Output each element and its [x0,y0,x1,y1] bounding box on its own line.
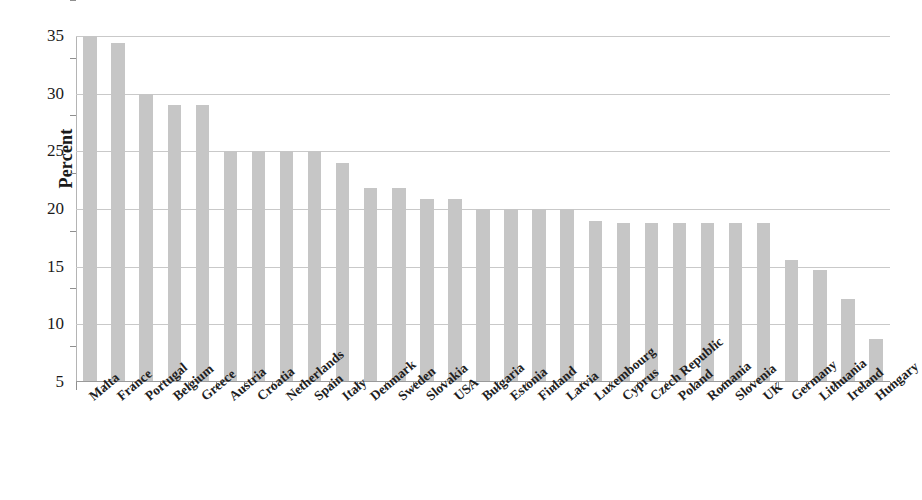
y-tick-mark [70,231,76,232]
y-tick-label: 15 [24,257,64,277]
y-tick-label: 10 [24,314,64,334]
y-tick-label: 35 [24,26,64,46]
y-tick-label: 25 [24,141,64,161]
y-tick-mark [70,0,76,1]
x-axis-labels: MaltaFrancePortugalBelgiumGreeceAustriaC… [76,388,908,500]
y-tick-mark [70,173,76,174]
y-tick-label: 20 [24,199,64,219]
y-tick-mark [70,58,76,59]
y-tick-label: 30 [24,84,64,104]
y-tick-label: 5 [24,372,64,392]
y-tick-mark [70,288,76,289]
y-tick-mark [70,115,76,116]
y-tick-mark [70,346,76,347]
